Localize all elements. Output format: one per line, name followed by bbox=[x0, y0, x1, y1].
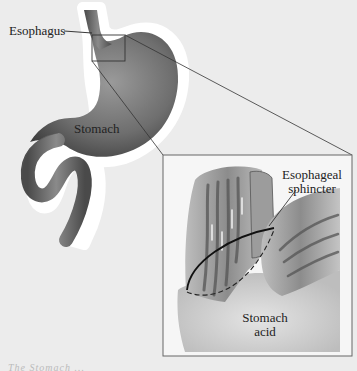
stomach-diagram: Esophagus Stomach Esophageal sphincter S… bbox=[0, 0, 357, 371]
caption-cutoff: The Stomach ... bbox=[8, 362, 85, 371]
label-stomach: Stomach bbox=[74, 122, 120, 136]
label-esophagus: Esophagus bbox=[9, 24, 65, 38]
label-stomach-acid: Stomach acid bbox=[235, 311, 295, 340]
label-esophageal-sphincter: Esophageal sphincter bbox=[270, 168, 354, 197]
